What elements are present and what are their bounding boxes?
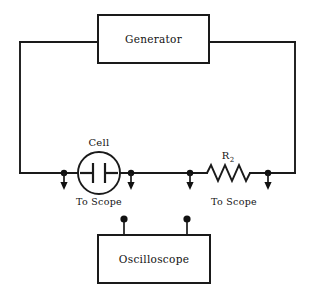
generator-label: Generator: [125, 34, 182, 45]
oscilloscope-label: Oscilloscope: [119, 254, 189, 265]
scope-terminal-dot-right: [183, 215, 190, 222]
resistor-zigzag-symbol: [207, 165, 250, 181]
cell-label: Cell: [88, 138, 109, 148]
resistor-label-main: R: [222, 150, 230, 161]
resistor-label: R2: [222, 151, 234, 164]
to-scope-label-left: To Scope: [76, 197, 122, 207]
resistor-label-subscript: 2: [230, 156, 234, 164]
tap-arrowhead-right-of-cell: [127, 182, 134, 190]
tap-arrowhead-left-of-cell: [60, 182, 67, 190]
tap-arrowhead-left-of-resistor: [186, 182, 193, 190]
scope-terminal-dot-left: [120, 215, 127, 222]
to-scope-label-right: To Scope: [211, 197, 257, 207]
tap-arrowhead-right-of-resistor: [264, 182, 271, 190]
circuit-diagram: Generator Oscilloscope Cell R2 To Scope …: [0, 0, 311, 297]
